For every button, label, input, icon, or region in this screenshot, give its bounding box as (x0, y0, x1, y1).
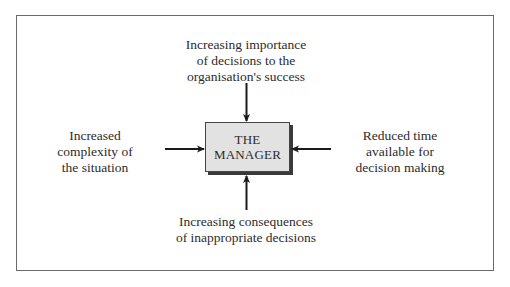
manager-box-line1: THE (235, 132, 261, 147)
factor-bottom-label: Increasing consequences of inappropriate… (150, 214, 342, 246)
factor-right-label: Reduced time available for decision maki… (340, 128, 460, 176)
factor-left-label: Increased complexity of the situation (30, 128, 160, 176)
manager-box-line2: MANAGER (214, 147, 281, 162)
factor-top-label: Increasing importance of decisions to th… (160, 37, 332, 85)
manager-box: THE MANAGER (205, 122, 290, 172)
